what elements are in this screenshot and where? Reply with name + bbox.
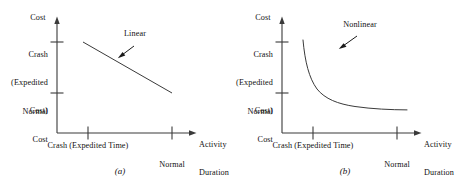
curve-annotation-linear: Linear — [112, 29, 158, 38]
y-tick-label-normal-cost-b: Normal Cost — [225, 88, 273, 163]
x-axis-title-b-line1: Activity — [424, 140, 462, 149]
y-tick-label-normal-cost-a-line1: Normal — [0, 107, 48, 116]
chart-panel-a: Cost Crash (Expedited Cost) Normal Cost … — [0, 0, 231, 189]
y-tick-label-crash-cost-b-line1: Crash — [225, 50, 273, 59]
y-tick-label-normal-cost-b-line1: Normal — [225, 107, 273, 116]
x-axis-title-b: Activity Duration — [424, 121, 462, 189]
x-tick-label-normal-time-b-line1: Normal — [372, 160, 422, 169]
x-tick-label-normal-time-b: Normal Time — [372, 141, 422, 189]
x-tick-label-normal-time-a-line2: Time — [147, 188, 197, 189]
y-axis-title-a: Cost — [18, 13, 58, 22]
x-axis-arrow-b — [414, 130, 422, 135]
y-tick-label-crash-cost-b-line2: (Expedited — [225, 78, 273, 87]
x-tick-label-normal-time-b-line2: Time — [372, 188, 422, 189]
linear-cost-line — [83, 42, 172, 93]
x-tick-label-crash-time-a: Crash (Expedited Time) — [28, 141, 148, 150]
x-tick-label-normal-time-a-line1: Normal — [147, 160, 197, 169]
nonlinear-pointer-shaft — [343, 36, 357, 46]
x-axis-arrow-a — [189, 130, 197, 135]
chart-panel-b: Cost Crash (Expedited Cost) Normal Cost … — [225, 0, 456, 189]
x-tick-label-normal-time-a: Normal Time — [147, 141, 197, 189]
y-tick-label-normal-cost-a: Normal Cost — [0, 88, 48, 163]
panel-caption-b: (b) — [325, 166, 365, 176]
curve-annotation-nonlinear: Nonlinear — [330, 20, 390, 29]
nonlinear-cost-curve — [303, 40, 407, 110]
x-tick-label-crash-time-b: Crash (Expedited Time) — [253, 141, 373, 150]
panel-caption-a: (a) — [100, 166, 140, 176]
y-axis-title-b: Cost — [243, 13, 283, 22]
y-tick-label-crash-cost-a-line2: (Expedited — [0, 78, 48, 87]
x-axis-title-b-line2: Duration — [424, 168, 462, 177]
y-tick-label-crash-cost-a-line1: Crash — [0, 50, 48, 59]
